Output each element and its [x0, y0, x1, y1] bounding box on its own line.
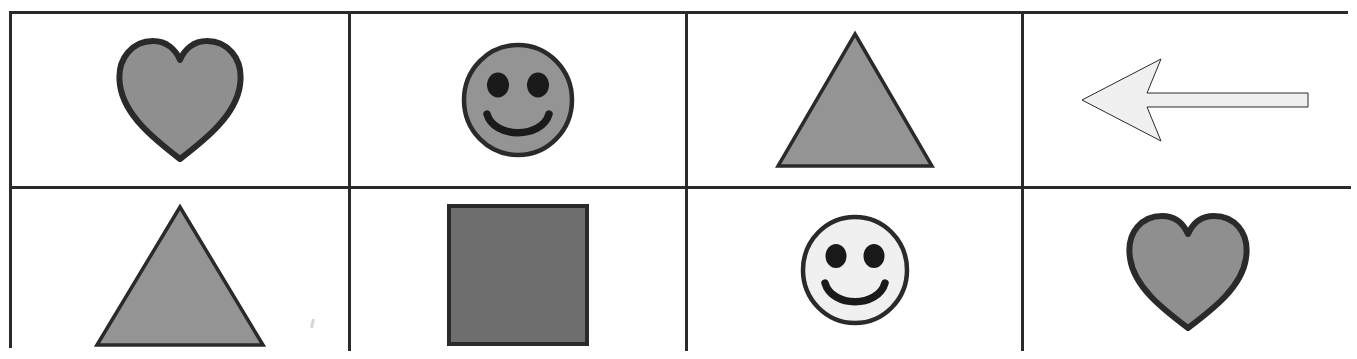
triangle-icon — [775, 30, 935, 170]
grid-cell-r2c1[interactable]: triangle — [12, 186, 348, 351]
arrow-left-icon — [1080, 55, 1312, 145]
smiley-face-icon — [460, 41, 576, 159]
page-top-margin — [0, 0, 1357, 11]
grid-cell-r2c2[interactable]: square — [348, 186, 685, 351]
heart-icon — [1124, 210, 1252, 334]
worksheet-canvas: heart smiley face triangle — [0, 0, 1357, 359]
smiley-face-icon — [799, 213, 911, 327]
grid-cell-r2c3[interactable]: smiley face — [685, 186, 1021, 351]
grid-cell-r1c4[interactable]: arrow — [1021, 14, 1351, 186]
triangle-icon — [94, 203, 266, 349]
heart-icon — [114, 35, 246, 165]
shape-grid: heart smiley face triangle — [9, 11, 1348, 348]
grid-cell-r1c3[interactable]: triangle — [685, 14, 1021, 186]
square-icon — [446, 203, 590, 347]
grid-cell-r2c4[interactable]: heart — [1021, 186, 1351, 351]
grid-cell-r1c1[interactable]: heart — [12, 14, 348, 186]
grid-cell-r1c2[interactable]: smiley face — [348, 14, 685, 186]
